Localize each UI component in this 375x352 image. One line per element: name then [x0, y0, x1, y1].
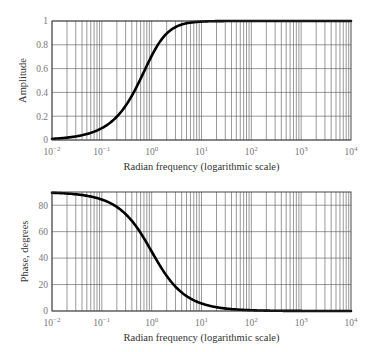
phase-grid	[52, 192, 351, 311]
phase-x-tick-label: 101	[195, 316, 209, 328]
phase-x-tick-label: 10−2	[44, 316, 61, 328]
phase-y-tick-label: 20	[39, 280, 49, 290]
phase-x-tick-label: 104	[345, 316, 359, 328]
phase-x-tick-label: 100	[145, 316, 159, 328]
amplitude-x-tick-label: 104	[345, 145, 359, 157]
amplitude-x-tick-label: 100	[145, 145, 159, 157]
phase-y-tick-label: 80	[39, 201, 49, 211]
bode-plot-figure: 00.20.40.60.81 10−210−1100101102103104 R…	[0, 0, 375, 352]
phase-y-tick-label: 60	[39, 227, 49, 237]
phase-x-ticks: 10−210−1100101102103104	[44, 316, 358, 328]
amplitude-y-tick-label: 0	[43, 135, 48, 145]
amplitude-x-tick-label: 10−1	[93, 145, 110, 157]
phase-plot: 020406080 10−210−1100101102103104 Radian…	[19, 192, 358, 344]
amplitude-x-ticks: 10−210−1100101102103104	[44, 145, 358, 157]
phase-y-tick-label: 0	[43, 306, 48, 316]
amplitude-y-ticks: 00.20.40.60.81	[36, 16, 48, 145]
amplitude-x-tick-label: 10−2	[44, 145, 61, 157]
amplitude-plot: 00.20.40.60.81 10−210−1100101102103104 R…	[17, 16, 358, 173]
amplitude-y-tick-label: 0.4	[36, 88, 48, 98]
phase-x-tick-label: 102	[245, 316, 258, 328]
amplitude-x-axis-title: Radian frequency (logarithmic scale)	[124, 161, 280, 173]
phase-y-ticks: 020406080	[39, 201, 49, 317]
phase-y-tick-label: 40	[39, 253, 49, 263]
amplitude-x-tick-label: 103	[295, 145, 309, 157]
amplitude-y-tick-label: 0.8	[36, 40, 48, 50]
phase-x-axis-title: Radian frequency (logarithmic scale)	[124, 332, 280, 344]
amplitude-x-tick-label: 101	[195, 145, 209, 157]
amplitude-y-axis-title: Amplitude	[17, 58, 28, 103]
phase-x-tick-label: 103	[295, 316, 309, 328]
amplitude-grid	[52, 21, 351, 140]
phase-x-tick-label: 10−1	[93, 316, 110, 328]
amplitude-y-tick-label: 1	[43, 16, 48, 26]
amplitude-y-tick-label: 0.2	[36, 112, 48, 122]
amplitude-y-tick-label: 0.6	[36, 64, 48, 74]
phase-y-axis-title: Phase, degrees	[19, 221, 30, 283]
amplitude-x-tick-label: 102	[245, 145, 258, 157]
